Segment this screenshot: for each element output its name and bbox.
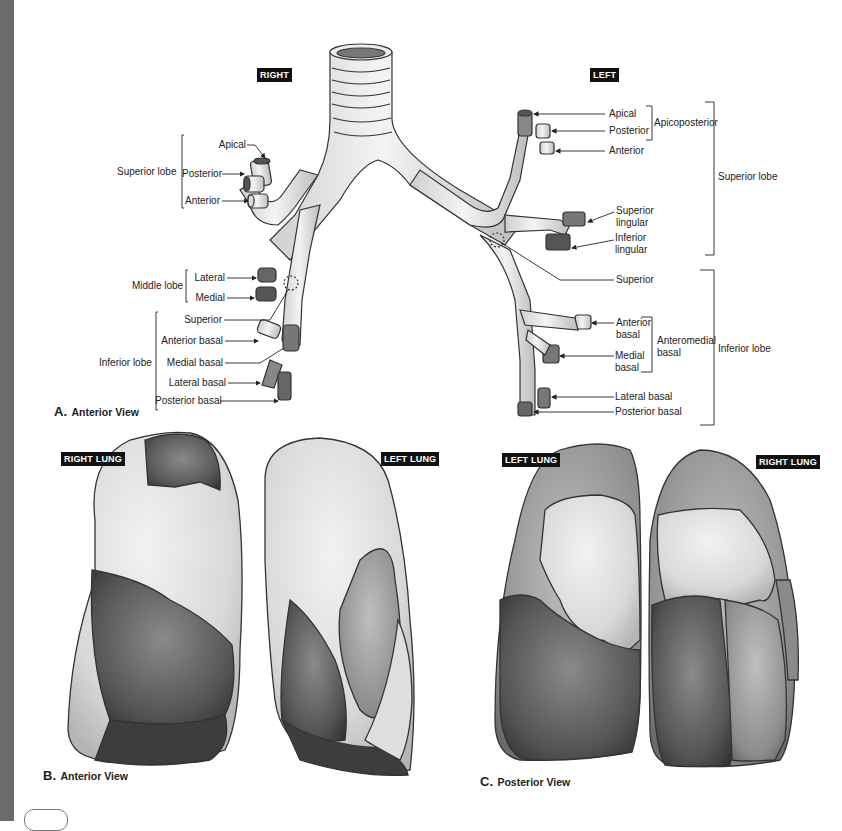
label-left-inferior-lingular-1: Inferior <box>615 232 646 244</box>
tag-b-left-lung: LEFT LUNG <box>381 452 439 466</box>
label-right-apical: Apical <box>192 139 246 151</box>
label-right-middle-lobe: Middle lobe <box>132 280 183 292</box>
caption-a-letter: A. <box>54 404 67 419</box>
label-left-anterior: Anterior <box>609 145 644 157</box>
caption-b-letter: B. <box>43 768 56 783</box>
label-left-apical: Apical <box>609 108 636 120</box>
tag-c-left-lung: LEFT LUNG <box>502 453 560 467</box>
label-left-superior-lingular-2: lingular <box>616 217 648 229</box>
tag-b-right-lung: RIGHT LUNG <box>61 452 125 466</box>
label-right-superior: Superior <box>160 314 222 326</box>
label-left-superior-lobe: Superior lobe <box>718 171 777 183</box>
tag-c-right-lung: RIGHT LUNG <box>756 455 820 469</box>
tag-right: RIGHT <box>257 68 292 82</box>
label-left-anteromedial-1: Anteromedial <box>657 335 716 347</box>
caption-c-text: Posterior View <box>497 776 570 788</box>
label-left-medial-basal-1: Medial <box>615 350 644 362</box>
label-right-anterior: Anterior <box>182 195 220 207</box>
label-right-posterior: Posterior <box>182 168 220 180</box>
left-lung-anterior <box>265 438 414 775</box>
label-left-lateral-basal: Lateral basal <box>615 391 672 403</box>
caption-b-text: Anterior View <box>60 770 128 782</box>
label-left-anterior-basal-1: Anterior <box>616 317 651 329</box>
right-lung-posterior <box>649 450 798 767</box>
label-right-medial-basal: Medial basal <box>160 357 223 369</box>
caption-panel-c: C. Posterior View <box>480 772 570 790</box>
label-right-lateral-basal: Lateral basal <box>160 377 226 389</box>
label-left-inferior-lobe: Inferior lobe <box>718 343 771 355</box>
caption-panel-a: A. Anterior View <box>54 402 139 420</box>
label-right-posterior-basal: Posterior basal <box>155 395 219 407</box>
label-left-posterior-basal: Posterior basal <box>615 406 682 418</box>
label-right-lateral: Lateral <box>186 272 225 284</box>
label-left-apicoposterior: Apicoposterior <box>654 117 718 129</box>
caption-panel-b: B. Anterior View <box>43 766 128 784</box>
label-left-medial-basal-2: basal <box>615 362 639 374</box>
label-left-superior-lingular-1: Superior <box>616 205 654 217</box>
label-right-anterior-basal: Anterior basal <box>160 335 223 347</box>
right-lung-anterior <box>68 432 242 765</box>
caption-a-text: Anterior View <box>71 406 139 418</box>
label-right-inferior-lobe: Inferior lobe <box>99 357 152 369</box>
tag-left: LEFT <box>590 68 619 82</box>
caption-c-letter: C. <box>480 774 493 789</box>
left-lung-posterior <box>495 444 641 760</box>
label-left-anterior-basal-2: basal <box>616 329 640 341</box>
label-left-superior: Superior <box>616 274 654 286</box>
label-right-medial: Medial <box>186 292 225 304</box>
left-bronchi <box>410 110 591 416</box>
label-right-superior-lobe: Superior lobe <box>117 166 176 178</box>
label-left-inferior-lingular-2: lingular <box>615 244 647 256</box>
label-left-posterior: Posterior <box>609 125 649 137</box>
label-left-anteromedial-2: basal <box>657 347 681 359</box>
